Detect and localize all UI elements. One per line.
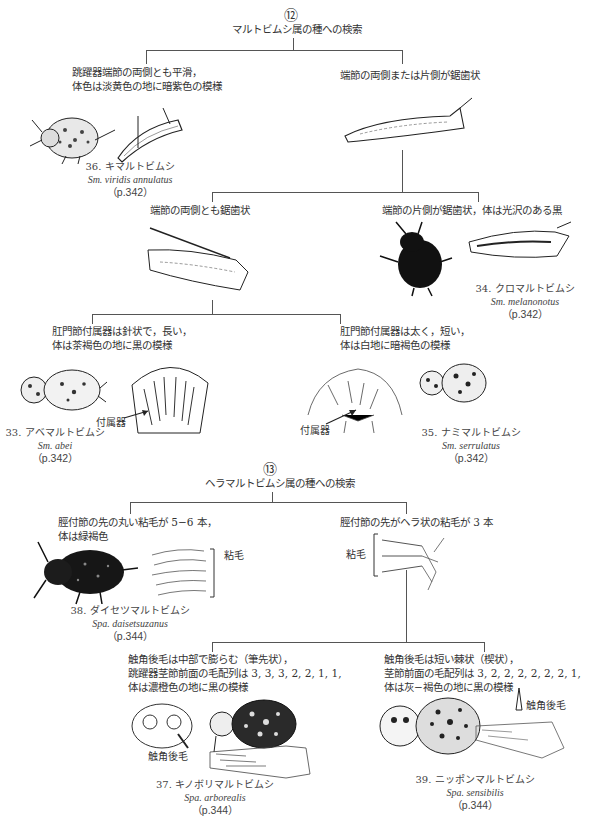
species38-habitus-illustration <box>30 540 140 605</box>
connector-line <box>130 502 131 514</box>
postantennal-label-left: 触角後毛 <box>148 748 188 763</box>
key12-title: マルトビムシ属の種への検索 <box>232 22 362 36</box>
species33-caption: 33. アベマルトビムシ Sm. abei （p.342） <box>0 426 110 465</box>
key12-sub-right-couplet: 端節の片側が鋸歯状，体は光沢のある黒 <box>382 203 562 217</box>
species34-mucro-illustration <box>465 222 575 277</box>
key13-left-couplet: 脛付節の先の丸い粘毛が 5−6 本， 体は緑褐色 <box>58 515 217 543</box>
connector-line <box>484 642 485 652</box>
key12-number: ⑫ <box>284 4 298 24</box>
key13-right-couplet: 脛付節の先がヘラ状の粘毛が 3 本 <box>340 515 493 529</box>
key13-sub-right-couplet: 触角後毛は短い棘状（楔状）， 茎節前面の毛配列は 3, 2, 2, 2, 2, … <box>384 652 581 694</box>
connector-line <box>130 502 406 503</box>
key12-sub-left-couplet: 端節の両側とも鋸歯状 <box>150 203 250 217</box>
species36-habitus-illustration <box>30 110 120 165</box>
key13-title: ヘラマルトビムシ属の種への検索 <box>205 476 355 490</box>
species33-anal-appendage-illustration <box>130 355 210 435</box>
species35-caption: 35. ナミマルトビムシ Sm. serrulatus （p.342） <box>416 426 526 465</box>
species36-caption: 36. キマルトビムシ Sm. viridis annulatus （p.342… <box>75 160 185 199</box>
species34-habitus-illustration <box>378 222 453 297</box>
species37-caption: 37. キノボリマルトビムシ Spa. arborealis （p.344） <box>150 778 280 817</box>
connector-line <box>212 642 484 643</box>
serrate-mucro-illustration <box>340 98 470 148</box>
connector-line <box>146 50 402 51</box>
tenent-hair-illustration-left <box>148 545 218 600</box>
postantennal-label-right: 触角後毛 <box>526 697 566 712</box>
connector-line <box>212 192 213 202</box>
connector-line <box>293 38 294 50</box>
connector-line <box>146 50 147 64</box>
tenent-label-left: 粘毛 <box>224 547 244 562</box>
arrow-icon <box>326 406 360 426</box>
tenent-hair-illustration-right <box>372 532 452 592</box>
key13-sub-left-couplet: 触角後毛は中部で膨らむ（筆先状）， 跳躍器茎節前面の毛配列は 3, 3, 3, … <box>128 652 342 694</box>
species34-caption: 34. クロマルトビムシ Sm. melanonotus （p.342） <box>470 282 580 321</box>
tenent-label-right: 粘毛 <box>346 546 366 561</box>
species36-mucro-illustration <box>108 108 188 168</box>
connector-line <box>402 50 403 64</box>
arrow-icon <box>124 408 152 422</box>
connector-line <box>212 300 213 314</box>
connector-line <box>406 570 407 642</box>
connector-line <box>272 492 273 502</box>
species37-head-illustration <box>128 700 198 750</box>
species38-caption: 38. ダイセツマルトビムシ Spa. daisetsuzanus （p.344… <box>70 604 190 643</box>
postantennal-organ-icon <box>514 688 524 712</box>
connector-line <box>406 502 407 514</box>
species33-habitus-illustration <box>12 362 107 417</box>
key12-right-couplet: 端節の両側または片側が鋸歯状 <box>340 68 480 82</box>
connector-line <box>92 314 93 324</box>
connector-line <box>340 314 341 324</box>
connector-line <box>212 642 213 652</box>
species37-manubrium-illustration <box>206 744 316 782</box>
key12-subsub-left-couplet: 肛門節付属器は針状で，長い， 体は茶褐色の地に黒の模様 <box>52 324 192 352</box>
species35-habitus-illustration <box>412 358 492 408</box>
connector-line <box>212 192 478 193</box>
species39-caption: 39. ニッポンマルトビムシ Spa. sensibilis （p.344） <box>410 773 540 812</box>
connector-line <box>478 192 479 202</box>
species39-manubrium-illustration <box>472 718 568 762</box>
connector-line <box>92 314 340 315</box>
key13-number: ⑬ <box>263 458 277 478</box>
key12-left-couplet: 跳躍器端節の両側とも平滑， 体色は淡黄色の地に暗紫色の模様 <box>72 65 222 93</box>
species39-habitus-illustration <box>376 692 486 762</box>
both-serrate-mucro-illustration <box>140 220 260 300</box>
connector-line <box>402 150 403 192</box>
key12-subsub-right-couplet: 肛門節付属器は太く，短い， 体は白地に暗褐色の模様 <box>340 324 470 352</box>
